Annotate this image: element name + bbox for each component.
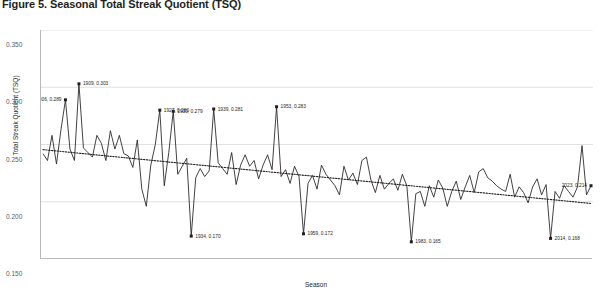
data-point-annotation: 1983, 0.165 [415, 239, 441, 244]
trendline [43, 150, 591, 204]
y-axis-title: Total Streak Quotient (TSQ) [12, 61, 19, 171]
annotations: 1906, 0.2891909, 0.3031927, 0.2801930, 0… [41, 81, 592, 244]
data-point-annotation: 1930, 0.279 [177, 109, 203, 114]
chart-svg: 1901190219031904190519061907190819091910… [41, 30, 593, 259]
data-point-annotation: 1906, 0.289 [41, 97, 62, 102]
data-point-annotation: 1959, 0.172 [308, 231, 334, 236]
data-point-annotation: 1909, 0.303 [83, 81, 109, 86]
data-point-annotation: 1934, 0.170 [195, 234, 221, 239]
x-axis-title: Season [40, 281, 592, 288]
chart-container: Total Streak Quotient (TSQ) 190119021903… [0, 16, 604, 293]
data-series-line [43, 84, 591, 242]
plot-frame: 1901190219031904190519061907190819091910… [40, 30, 592, 259]
y-tick-label: 0.350 [6, 41, 22, 48]
data-point-annotation: 1939, 0.281 [218, 107, 244, 112]
y-tick-label: 0.200 [6, 212, 22, 219]
figure-title: Figure 5. Seasonal Total Streak Quotient… [2, 0, 241, 10]
data-point-annotation: 2023, 0.214 [562, 183, 588, 188]
y-tick-label: 0.150 [6, 270, 22, 277]
data-point-annotation: 1953, 0.283 [281, 104, 307, 109]
data-point-annotation: 2014, 0.168 [555, 236, 581, 241]
